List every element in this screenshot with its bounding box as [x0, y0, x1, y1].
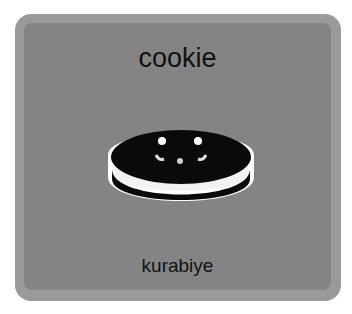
word-label: cookie — [24, 43, 331, 74]
flashcard[interactable]: cookie kurabiye — [15, 14, 341, 301]
cookie-icon — [98, 117, 264, 217]
translation-label: kurabiye — [24, 255, 331, 277]
flashcard-panel: cookie kurabiye — [24, 23, 331, 290]
